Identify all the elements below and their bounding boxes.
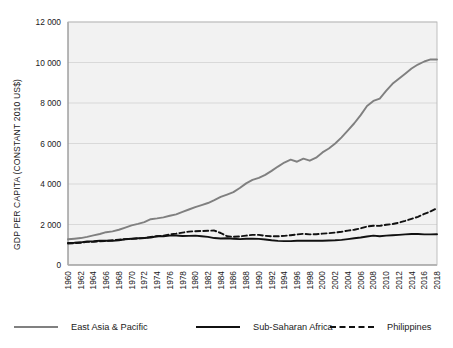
x-axis-tick-label: 1992	[267, 271, 277, 290]
x-axis-tick-label: 1978	[178, 271, 188, 290]
y-axis-tick-label: 0	[56, 260, 61, 270]
x-axis-tick-label: 1972	[139, 271, 149, 290]
x-axis-tick-label: 1980	[190, 271, 200, 290]
x-axis-tick-label: 1964	[88, 271, 98, 290]
x-axis-tick-label: 2002	[330, 271, 340, 290]
y-axis-tick-label: 4 000	[40, 179, 61, 189]
x-axis-tick-label: 1982	[203, 271, 213, 290]
x-axis-tick-label: 1970	[127, 271, 137, 290]
x-axis-tick-label: 1960	[63, 271, 73, 290]
x-axis-tick-label: 2004	[343, 271, 353, 290]
x-axis-tick-label: 2008	[368, 271, 378, 290]
x-axis-tick-label: 1974	[152, 271, 162, 290]
x-axis-tick-label: 1976	[165, 271, 175, 290]
x-axis-tick-label: 1998	[305, 271, 315, 290]
legend-label: Sub-Saharan Africa	[253, 322, 334, 332]
y-axis-tick-label: 10 000	[36, 58, 62, 68]
x-axis-tick-label: 2012	[394, 271, 404, 290]
x-axis-tick-label: 2000	[317, 271, 327, 290]
x-axis-tick-label: 2010	[381, 271, 391, 290]
chart-container: 02 0004 0006 0008 00010 00012 000 196019…	[0, 0, 453, 348]
x-axis-tick-label: 2018	[432, 271, 442, 290]
y-axis-tick-label: 8 000	[40, 98, 61, 108]
x-axis-tick-label: 1994	[279, 271, 289, 290]
y-axis-tick-label: 6 000	[40, 139, 61, 149]
x-axis-tick-label: 1962	[76, 271, 86, 290]
gdp-per-capita-line-chart: 02 0004 0006 0008 00010 00012 000 196019…	[0, 0, 453, 348]
y-axis-tick-label: 12 000	[36, 17, 62, 27]
x-axis-tick-label: 1990	[254, 271, 264, 290]
x-axis-tick-label: 1968	[114, 271, 124, 290]
legend-label: East Asia & Pacific	[71, 322, 148, 332]
x-axis-tick-label: 2006	[356, 271, 366, 290]
x-axis-tick-label: 1966	[101, 271, 111, 290]
x-axis-tick-label: 2014	[407, 271, 417, 290]
x-axis-tick-label: 1986	[228, 271, 238, 290]
x-axis-tick-label: 1984	[216, 271, 226, 290]
x-axis-tick-label: 1996	[292, 271, 302, 290]
x-axis-tick-label: 1988	[241, 271, 251, 290]
legend-label: Philippines	[387, 322, 432, 332]
y-axis-title: GDP PER CAPITA (CONSTANT 2010 US$)	[12, 79, 22, 250]
x-axis-tick-label: 2016	[419, 271, 429, 290]
y-axis-tick-label: 2 000	[40, 220, 61, 230]
